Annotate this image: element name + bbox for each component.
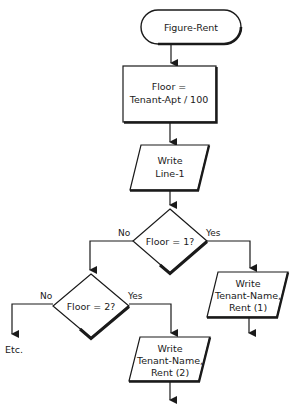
write-line1-io: Write Line-1 (130, 145, 209, 191)
start-label: Figure-Rent (164, 22, 218, 33)
flowchart: Figure-Rent Floor = Tenant-Apt / 100 Wri… (0, 0, 301, 416)
etc-label: Etc. (5, 344, 23, 355)
edge-decision1-yes (207, 241, 250, 268)
decision2-yes-label: Yes (127, 291, 143, 301)
decision1-label: Floor = 1? (146, 236, 195, 247)
decision1-yes-label: Yes (205, 228, 221, 238)
write-rent1-line3: Rent (1) (229, 302, 267, 313)
edge-decision2-no (12, 304, 53, 334)
decision2-diamond: Floor = 2? (53, 274, 129, 339)
decision2-no-label: No (40, 291, 53, 301)
decision1-no-label: No (118, 228, 131, 238)
write-rent2-line2: Tenant-Name, (136, 355, 203, 366)
edge-decision2-yes (129, 304, 171, 333)
compute-floor-process: Floor = Tenant-Apt / 100 (123, 66, 217, 123)
process-line2: Tenant-Apt / 100 (129, 94, 208, 105)
write-rent1-line1: Write (235, 278, 260, 289)
decision2-label: Floor = 2? (67, 301, 116, 312)
write-rent1-line2: Tenant-Name, (214, 290, 281, 301)
write-rent2-line1: Write (157, 343, 182, 354)
write-line1-line1: Write (157, 155, 182, 166)
decision1-diamond: Floor = 1? (133, 209, 207, 274)
process-line1: Floor = (152, 81, 187, 92)
write-line1-line2: Line-1 (155, 168, 184, 179)
write-rent2-io: Write Tenant-Name, Rent (2) (129, 337, 210, 382)
edge-decision1-no (90, 241, 133, 270)
write-rent2-line3: Rent (2) (151, 367, 189, 378)
start-terminator: Figure-Rent (141, 10, 241, 44)
write-rent1-io: Write Tenant-Name, Rent (1) (207, 272, 288, 318)
